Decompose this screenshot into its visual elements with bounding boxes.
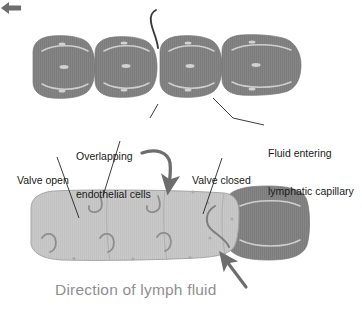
label-fluid-entering-lymphatic-capillary: Fluid entering lymphatic capillary: [268, 121, 354, 211]
upper-vessel-group: [33, 10, 301, 98]
diagram-canvas: Overlapping endothelial cells Valve open…: [0, 0, 362, 322]
upper-cell-4: [222, 35, 301, 96]
caption-direction-of-lymph-fluid: Direction of lymph fluid: [55, 281, 217, 299]
label-line-1: Fluid entering: [268, 147, 354, 160]
label-line-1: Valve open: [17, 174, 69, 187]
label-line-2: endothelial cells: [76, 188, 151, 201]
left-arrow-icon: [0, 0, 22, 16]
thick-up-left-arrow-icon: [225, 259, 246, 287]
label-line-2: lymphatic capillary: [268, 185, 354, 198]
label-valve-closed: Valve closed: [192, 149, 251, 199]
leader-fluid-entering: [213, 98, 264, 125]
label-overlapping-endothelial-cells: Overlapping endothelial cells: [76, 124, 151, 214]
curved-inflow-line-icon: [151, 10, 158, 48]
label-line-1: Valve closed: [192, 174, 251, 187]
leader-overlapping-cells-top: [150, 104, 158, 118]
label-line-1: Overlapping: [76, 150, 151, 163]
label-valve-open: Valve open: [17, 149, 69, 199]
